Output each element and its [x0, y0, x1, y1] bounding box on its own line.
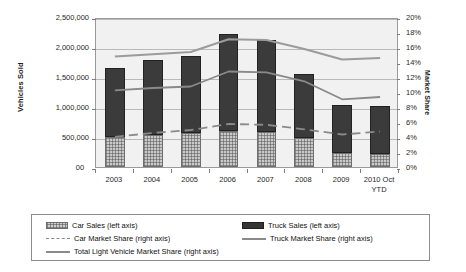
- legend-line-truck-market-share-icon: [242, 235, 266, 242]
- x-tickmark-6: [322, 169, 323, 173]
- x-axis-label-3: 2006: [209, 175, 247, 185]
- y-left-tick-3: 1,500,000: [56, 74, 89, 82]
- x-tickmark-8: [398, 169, 399, 173]
- x-tickmark-5: [284, 169, 285, 173]
- y-right-tick-1: 2%: [406, 149, 417, 157]
- y-right-tick-3: 6%: [406, 119, 417, 127]
- y-right-tick-8: 16%: [406, 44, 421, 52]
- x-axis: 20032004200520062007200820092010 Oct YTD: [95, 169, 398, 203]
- y-right-tick-0: 0%: [406, 164, 417, 172]
- legend-entry-car-market-share: Car Market Share (right axis): [46, 232, 170, 245]
- y-left-tick-1: 500,000: [62, 134, 89, 142]
- y-left-tick-4: 2,000,000: [56, 44, 89, 52]
- x-axis-label-6: 2009: [322, 175, 360, 185]
- x-tickmark-3: [209, 169, 210, 173]
- line-series-car-market-share-right-axis: [115, 124, 380, 137]
- y-right-tick-7: 14%: [406, 59, 421, 67]
- legend-label-car-sales: Car Sales (left axis): [71, 221, 137, 230]
- legend-label-total-market-share: Total Light Vehicle Market Share (right …: [73, 247, 219, 256]
- y-left-zero-label: 0: [80, 163, 84, 172]
- y-left-tick-5: 2,500,000: [56, 14, 89, 22]
- line-series-container: [96, 19, 399, 169]
- x-axis-label-0: 2003: [95, 175, 133, 185]
- legend-label-car-market-share: Car Market Share (right axis): [73, 234, 170, 243]
- legend-label-truck-sales: Truck Sales (left axis): [267, 221, 340, 230]
- y-right-tick-6: 12%: [406, 74, 421, 82]
- y-right-tick-10: 20%: [406, 14, 421, 22]
- y-left-tick-2: 1,000,000: [56, 104, 89, 112]
- legend-entry-car-sales: Car Sales (left axis): [46, 219, 137, 232]
- legend-line-total-market-share-icon: [46, 248, 70, 255]
- x-axis-label-5: 2008: [284, 175, 322, 185]
- x-tickmark-0: [95, 169, 96, 173]
- chart-screenshot: Vehicles Sold Market Share 0500,0001,000…: [0, 0, 466, 272]
- y-axis-left-ticks: 0500,0001,000,0001,500,0002,000,0002,500…: [31, 12, 93, 172]
- y-axis-left-title: Vehicles Sold: [13, 52, 27, 122]
- line-series-total-light-vehicle-market-share-right-axis: [115, 39, 380, 59]
- legend-entry-truck-market-share: Truck Market Share (right axis): [242, 232, 373, 245]
- y-right-tick-4: 8%: [406, 104, 417, 112]
- y-right-tick-9: 18%: [406, 29, 421, 37]
- legend-row-2: Car Market Share (right axis) Truck Mark…: [38, 232, 423, 245]
- legend-entry-total-market-share: Total Light Vehicle Market Share (right …: [46, 245, 219, 258]
- y-right-tick-2: 4%: [406, 134, 417, 142]
- x-axis-label-2: 2005: [171, 175, 209, 185]
- x-tickmark-4: [247, 169, 248, 173]
- x-tickmark-7: [360, 169, 361, 173]
- legend-swatch-car-sales-icon: [46, 222, 68, 229]
- legend-row-1: Car Sales (left axis) Truck Sales (left …: [38, 219, 423, 232]
- legend-entry-truck-sales: Truck Sales (left axis): [242, 219, 340, 232]
- y-right-tick-5: 10%: [406, 89, 421, 97]
- plot-area: [95, 18, 398, 168]
- legend-label-truck-market-share: Truck Market Share (right axis): [269, 234, 373, 243]
- legend-line-car-market-share-icon: [46, 235, 70, 242]
- legend-swatch-truck-sales-icon: [242, 222, 264, 229]
- x-tickmark-1: [133, 169, 134, 173]
- x-axis-label-7: 2010 Oct YTD: [360, 175, 398, 195]
- x-tickmark-2: [171, 169, 172, 173]
- chart-legend: Car Sales (left axis) Truck Sales (left …: [31, 214, 430, 261]
- legend-row-3: Total Light Vehicle Market Share (right …: [38, 245, 423, 258]
- x-axis-label-4: 2007: [247, 175, 285, 185]
- y-axis-right-ticks: 0%2%4%6%8%10%12%14%16%18%20%: [400, 12, 430, 172]
- line-series-truck-market-share-right-axis: [115, 72, 380, 100]
- x-axis-label-1: 2004: [133, 175, 171, 185]
